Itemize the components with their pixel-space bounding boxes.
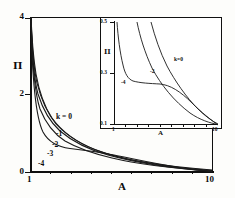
main-curve-label-k-3: -3 <box>47 150 53 158</box>
inset-curve-k-4 <box>117 22 218 125</box>
figure-container: 0 2 4 1 10 Π A k = 0 <box>0 0 235 198</box>
inset-curves <box>100 17 222 141</box>
main-curve-label-k-1: -1 <box>56 130 62 138</box>
inset-curve-label-k-4: -4 <box>121 80 126 86</box>
inset-curve-label-k-2: -2 <box>150 69 155 75</box>
inset-plot: 0.5 0.3 0.1 1 10 Π A k=0 -2 -4 <box>100 17 222 141</box>
main-curve-label-k-2: -2 <box>52 141 58 149</box>
inset-curve-label-k0: k=0 <box>174 57 183 63</box>
main-curve-label-k0: k = 0 <box>56 113 72 121</box>
main-curve-label-k-4: -4 <box>38 160 44 168</box>
